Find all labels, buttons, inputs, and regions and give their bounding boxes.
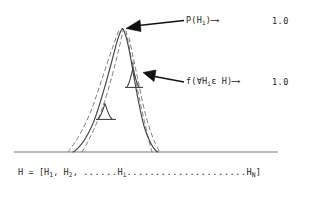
inner-peak-lower-outline <box>98 104 112 120</box>
annotation-value-f-hi: 1.0 <box>272 77 289 87</box>
domain-expression: H = [H1, H2, ......Hi...................… <box>18 168 261 178</box>
figure-root: P(Hi)⟶ 1.0 f(∀Hiε H)⟶ 1.0 H = [H1, H2, .… <box>0 0 311 197</box>
dashed-curve-right-inner <box>126 31 152 152</box>
arrow-to-inner-peak <box>143 70 184 82</box>
annotation-value-p-hi: 1.0 <box>272 16 289 26</box>
annotation-f-hi-symbol-tail: ε H) <box>211 76 232 86</box>
annotation-f-hi-symbol: f(∀H <box>186 76 207 86</box>
dashed-curve-left-outer <box>68 30 119 152</box>
main-distribution-curve <box>73 29 158 153</box>
domain-ellipsis-1: ...... <box>83 167 117 177</box>
annotation-label-f-hi: f(∀Hiε H)⟶ <box>186 77 240 87</box>
right-arrow-icon: ⟶ <box>231 77 242 86</box>
arrow-to-main-peak <box>126 20 184 32</box>
domain-close-bracket: ] <box>256 167 261 177</box>
domain-ellipsis-2: ..................... <box>127 167 247 177</box>
dashed-curve-right-outer <box>129 38 160 152</box>
annotation-p-hi-symbol: P(H <box>186 15 202 25</box>
right-arrow-icon: ⟶ <box>209 16 220 25</box>
annotation-label-p-hi: P(Hi)⟶ <box>186 16 219 26</box>
